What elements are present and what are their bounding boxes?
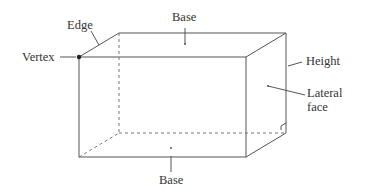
height-pointer [288,62,302,66]
front-face [79,57,246,157]
prism-diagram: Edge Vertex Base Base Height Lateral fac… [0,0,365,191]
lateral-face-dot [267,85,269,87]
hidden-edge-bottom-left [79,133,119,157]
base-top-label: Base [172,11,196,24]
edge-label: Edge [67,19,93,32]
vertex-label: Vertex [22,51,55,64]
height-label: Height [306,55,340,68]
edge-pointer [91,31,99,45]
edge-top-right [246,33,286,57]
base-top-dot [184,43,186,45]
lateral-face-label-line1: Lateral [307,87,342,100]
base-bottom-label: Base [159,174,183,187]
base-bottom-dot [170,147,172,149]
vertex-dot [77,55,81,59]
lateral-face-label-line2: face [307,101,328,114]
edge-bottom-right [246,133,286,157]
right-angle-marker [281,123,286,130]
